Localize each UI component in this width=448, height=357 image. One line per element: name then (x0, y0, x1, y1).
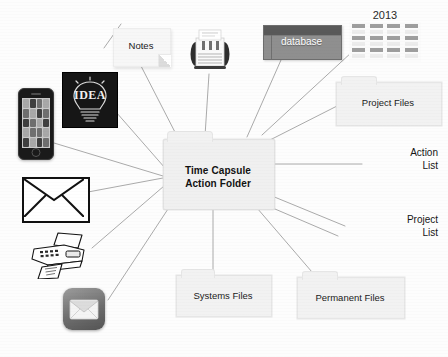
edge-envelope-to-center (88, 178, 163, 192)
phone-home-button[interactable] (32, 148, 41, 157)
systems-files-label: Systems Files (176, 290, 270, 302)
edge-idea-to-center (116, 112, 165, 168)
phone-screen (22, 98, 50, 148)
calendar-row (349, 52, 421, 58)
fax-machine-icon[interactable] (28, 231, 90, 279)
action-list-line1: Action (336, 146, 438, 159)
database-title-bar (264, 26, 341, 36)
project-list-line2: List (336, 226, 438, 239)
folder-tab (181, 269, 215, 278)
edge-mailapp-to-center (108, 209, 168, 300)
edge-center-to-project-list-2 (268, 206, 338, 236)
center-node-label: Time Capsule Action Folder (163, 164, 273, 190)
action-list-line2: List (336, 159, 438, 172)
center-label-line1: Time Capsule (163, 164, 273, 177)
card-file-icon[interactable] (188, 24, 232, 72)
phone-speaker (31, 93, 41, 95)
edge-center-to-project-list (272, 196, 345, 226)
edge-notes-to-center (141, 66, 178, 138)
diagram-canvas: Time Capsule Action Folder Notes (0, 0, 448, 357)
idea-bulb-image[interactable]: IDEA (62, 72, 118, 128)
smartphone-icon[interactable] (18, 88, 54, 160)
database-label: database (263, 36, 340, 47)
project-list-line1: Project (336, 213, 438, 226)
folder-tab (302, 271, 338, 280)
edge-center-to-database (247, 60, 281, 137)
permanent-files-label: Permanent Files (297, 292, 403, 304)
edge-center-to-project-files (268, 104, 341, 141)
idea-text: IDEA (74, 88, 106, 102)
notes-label: Notes (113, 40, 169, 51)
calendar-month-grid (349, 22, 421, 62)
action-list-label: Action List (336, 146, 438, 172)
edge-rolodex-to-center (205, 74, 209, 136)
edge-fax-to-center (92, 186, 164, 248)
note-corner-curl (158, 54, 171, 67)
calendar-year-label: 2013 (349, 8, 421, 22)
edge-iphone-to-center (54, 143, 163, 176)
project-list-label: Project List (336, 213, 438, 239)
folder-tab (341, 76, 377, 85)
mail-app-icon[interactable] (63, 288, 105, 330)
envelope-icon[interactable] (22, 177, 90, 223)
calendar-2013[interactable]: 2013 (349, 8, 421, 64)
edge-center-to-permanent (257, 208, 312, 272)
project-files-label: Project Files (336, 97, 440, 109)
folder-tab (167, 131, 213, 142)
center-label-line2: Action Folder (163, 177, 273, 190)
